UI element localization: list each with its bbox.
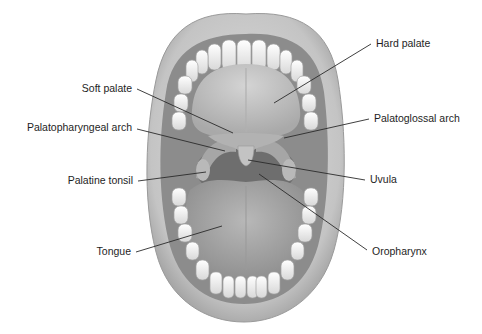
uvula-label: Uvula xyxy=(370,173,397,185)
hard-palate-label: Hard palate xyxy=(376,37,430,49)
palatopharyngeal-arch-label: Palatopharyngeal arch xyxy=(27,121,132,133)
mouth-illustration: Hard palateSoft palatePalatopharyngeal a… xyxy=(0,0,482,334)
palatine-tonsil-left xyxy=(196,159,210,181)
tongue-label: Tongue xyxy=(97,245,132,257)
oropharynx-label: Oropharynx xyxy=(372,245,428,257)
palatine-tonsil-right xyxy=(282,159,296,181)
oral-cavity-diagram: Hard palateSoft palatePalatopharyngeal a… xyxy=(0,0,482,334)
soft-palate-label: Soft palate xyxy=(82,82,132,94)
palatoglossal-arch-label: Palatoglossal arch xyxy=(374,112,460,124)
palatine-tonsil-label: Palatine tonsil xyxy=(68,174,133,186)
